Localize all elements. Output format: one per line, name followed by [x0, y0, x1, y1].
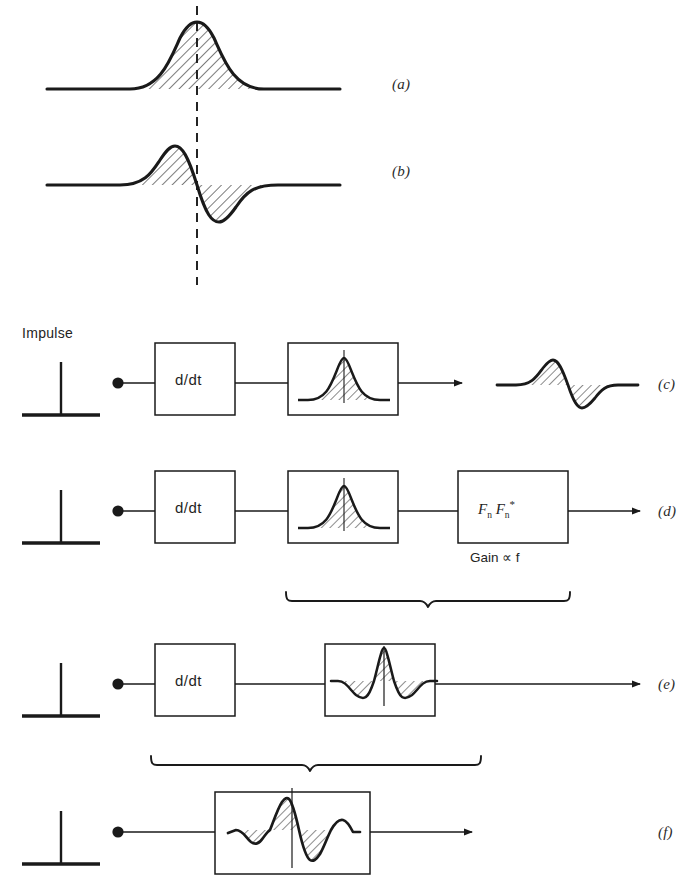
input-node-e [112, 678, 123, 689]
impulse-symbol-f [22, 811, 100, 864]
gaussian-filter-glyph-d [298, 478, 390, 531]
brace-e-f [151, 756, 481, 771]
fn-first-subscript: n [487, 510, 492, 520]
fn-second-symbol: F [496, 501, 505, 517]
input-node-c [112, 377, 123, 388]
impulse-symbol-c [22, 362, 100, 415]
derivative-block-label-d: d/dt [175, 499, 202, 516]
gain-proportional-label: Gain ∝ f [470, 549, 519, 565]
input-node-d [112, 505, 123, 516]
input-node-f [112, 826, 123, 837]
impulse-label: Impulse [22, 325, 73, 341]
mexicanhat-filter-glyph-e [331, 646, 437, 706]
fn-conjugate-star: * [510, 498, 516, 510]
derivative-block-label-e: d/dt [175, 672, 202, 689]
impulse-symbol-e [22, 663, 100, 716]
impulse-symbol-d [22, 490, 100, 543]
panel-label-b: (b) [392, 163, 410, 180]
panel-label-d: (d) [658, 503, 676, 520]
figure-canvas: Impulse d/dt d/dt d/dt Fn Fn* Gain ∝ f (… [0, 0, 699, 889]
panel-label-f: (f) [658, 824, 673, 841]
wavelet-filter-glyph-f [228, 788, 360, 868]
gaussian-filter-glyph-c [298, 350, 390, 403]
panel-b-waveform [47, 146, 340, 222]
panel-label-a: (a) [392, 76, 410, 93]
fn-second-subscript: n [505, 510, 510, 520]
panel-a-waveform [47, 6, 340, 117]
panel-label-c: (c) [658, 376, 675, 393]
derivative-block-label-c: d/dt [175, 371, 202, 388]
fn-gain-block-label: Fn Fn* [478, 498, 515, 520]
brace-d-e [286, 592, 570, 607]
fn-first-symbol: F [478, 501, 487, 517]
output-waveform-c [497, 360, 638, 408]
figure-svg [0, 0, 699, 889]
panel-label-e: (e) [658, 676, 675, 693]
